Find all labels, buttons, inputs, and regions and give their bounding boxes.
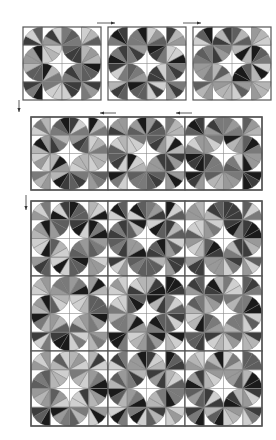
quilt-block: [193, 27, 271, 100]
quilt-block: [108, 351, 185, 426]
quilt-blocks: [23, 27, 271, 426]
quilt-block: [185, 117, 262, 190]
quilt-block: [31, 201, 108, 276]
quilt-block: [31, 351, 108, 426]
quilt-assembly-diagram: [0, 0, 276, 440]
quilt-block: [185, 201, 262, 276]
quilt-block: [185, 351, 262, 426]
quilt-block: [108, 27, 186, 100]
quilt-block: [108, 117, 185, 190]
arrow-down-2-icon: [24, 195, 27, 210]
quilt-block: [31, 276, 108, 351]
quilt-block: [31, 117, 108, 190]
stage-2-joined-row: [31, 117, 262, 190]
quilt-block: [108, 276, 185, 351]
arrow-right-2-icon: [183, 21, 201, 24]
arrow-down-1-icon: [17, 100, 20, 112]
quilt-block: [108, 201, 185, 276]
arrow-right-1-icon: [97, 21, 115, 24]
arrow-left-2-icon: [176, 111, 192, 114]
quilt-block: [185, 276, 262, 351]
arrow-left-1-icon: [100, 111, 116, 114]
quilt-block: [23, 27, 101, 100]
stage-3-assembled-quilt: [31, 201, 262, 426]
stage-1-row-of-blocks: [23, 27, 271, 100]
